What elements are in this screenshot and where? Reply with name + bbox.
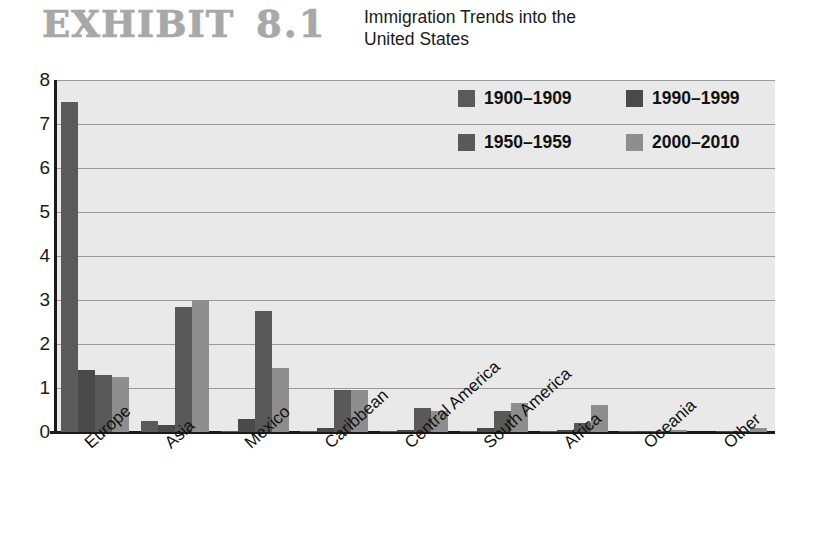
legend-swatch-icon <box>626 90 643 107</box>
y-axis-tick-label: 7 <box>6 113 50 135</box>
legend-label: 2000–2010 <box>652 132 740 153</box>
legend-item-1950-1959[interactable]: 1950–1959 <box>458 132 572 153</box>
y-axis-tick-label: 3 <box>6 289 50 311</box>
x-axis-labels: EuropeAsiaMexicoCaribbeanCentral America… <box>0 432 820 545</box>
bar[interactable] <box>141 421 158 432</box>
y-axis-tick-label: 4 <box>6 245 50 267</box>
legend-swatch-icon <box>626 134 643 151</box>
legend-label: 1950–1959 <box>484 132 572 153</box>
bar-group <box>380 80 448 432</box>
legend-swatch-icon <box>458 90 475 107</box>
chart-subtitle-line-1: Immigration Trends into the <box>364 6 664 28</box>
chart-legend: 1900–1909 1990–1999 1950–1959 2000–2010 <box>458 88 768 158</box>
y-axis-tick-label: 1 <box>6 377 50 399</box>
exhibit-header: EXHIBIT 8.1 Immigration Trends into the … <box>0 0 820 68</box>
bar[interactable] <box>61 102 78 432</box>
chart-subtitle-line-2: United States <box>364 28 664 50</box>
legend-label: 1900–1909 <box>484 88 572 109</box>
y-axis-tick-label: 8 <box>6 69 50 91</box>
y-axis-tick-label: 2 <box>6 333 50 355</box>
bar-group <box>300 80 368 432</box>
bar-group <box>141 80 209 432</box>
exhibit-number: 8.1 <box>256 2 326 46</box>
legend-item-1990-1999[interactable]: 1990–1999 <box>626 88 740 109</box>
y-axis-tick-label: 6 <box>6 157 50 179</box>
bar[interactable] <box>175 307 192 432</box>
bar[interactable] <box>78 370 95 432</box>
bar[interactable] <box>192 300 209 432</box>
legend-swatch-icon <box>458 134 475 151</box>
legend-item-2000-2010[interactable]: 2000–2010 <box>626 132 740 153</box>
legend-label: 1990–1999 <box>652 88 740 109</box>
legend-item-1900-1909[interactable]: 1900–1909 <box>458 88 572 109</box>
bar-group <box>61 80 129 432</box>
y-axis-tick-label: 5 <box>6 201 50 223</box>
bar-group <box>221 80 289 432</box>
exhibit-label: EXHIBIT <box>42 2 234 46</box>
chart-subtitle: Immigration Trends into the United State… <box>364 6 664 50</box>
